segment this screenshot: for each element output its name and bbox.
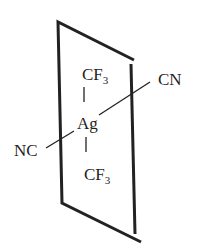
nc-text: NC: [14, 141, 38, 160]
bond-ag-cn: [99, 82, 150, 115]
ligand-cf3-bottom: CF3: [84, 166, 110, 183]
ligand-nc-left: NC: [14, 142, 38, 159]
cf3-top-subscript: 3: [103, 74, 109, 86]
plane-left-edge: [58, 22, 141, 242]
ligand-cn-right: CN: [158, 71, 182, 88]
center-atom-ag: Ag: [77, 115, 98, 132]
ligand-cf3-top: CF3: [82, 66, 108, 83]
cf3-top-text: CF: [82, 65, 103, 84]
molecular-plane-diagram: [0, 0, 198, 250]
plane-right-edge: [131, 64, 135, 234]
cf3-bottom-text: CF: [84, 165, 105, 184]
cf3-bottom-subscript: 3: [105, 174, 111, 186]
ag-text: Ag: [77, 114, 98, 133]
cn-text: CN: [158, 70, 182, 89]
